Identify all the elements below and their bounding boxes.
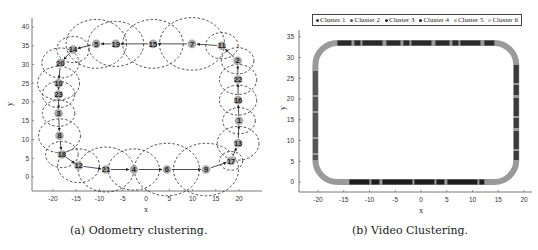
cluster-node-label: 22 xyxy=(234,75,242,84)
legend-label: Cluster 5 xyxy=(458,16,483,24)
legend-label: Cluster 1 xyxy=(320,16,345,24)
legend-item-cluster-2: Cluster 2 xyxy=(350,16,379,24)
x-tick-label: 15 xyxy=(495,196,503,203)
transition-arrow xyxy=(59,68,60,78)
cluster-node-label: 3 xyxy=(56,109,60,118)
y-tick-label: 5 xyxy=(290,158,294,165)
odometry-plot: -20-15-10-5051015200510152025303540xy123… xyxy=(0,0,270,250)
legend-label: Cluster 6 xyxy=(492,16,517,24)
x-tick-label: 10 xyxy=(189,195,197,202)
x-tick-label: -5 xyxy=(120,195,126,202)
y-tick-label: 0 xyxy=(290,178,294,185)
cluster-node-label: 1 xyxy=(237,116,241,125)
x-tick-label: 5 xyxy=(167,195,171,202)
figure-video-clustering: -20-15-10-50510152005101520253035xy Clus… xyxy=(270,0,538,250)
cluster-node-label: 23 xyxy=(54,90,62,99)
transition-arrow xyxy=(197,44,217,45)
y-tick-label: 35 xyxy=(287,33,295,40)
x-tick-label: 20 xyxy=(520,196,528,203)
cluster-node-label: 15 xyxy=(149,40,157,49)
cluster-node-label: 13 xyxy=(234,139,242,148)
y-tick-label: 15 xyxy=(287,116,295,123)
transition-arrow xyxy=(59,118,60,131)
x-tick-label: -20 xyxy=(313,196,323,203)
transition-arrow xyxy=(84,166,102,168)
cluster-node-label: 8 xyxy=(57,131,61,140)
legend-label: Cluster 4 xyxy=(423,16,448,24)
legend-marker-icon xyxy=(419,19,422,22)
x-tick-label: 0 xyxy=(419,196,423,203)
cluster-node-label: 19 xyxy=(112,40,120,49)
y-tick-label: 25 xyxy=(287,75,295,82)
legend-marker-icon xyxy=(316,19,319,22)
trajectory-base xyxy=(315,43,516,182)
cluster-node-label: 18 xyxy=(58,150,66,159)
x-tick-label: -15 xyxy=(72,195,82,202)
caption-b: (b) Video Clustering. xyxy=(352,224,468,237)
caption-a: (a) Odometry clustering. xyxy=(70,224,207,237)
cluster-node-label: 12 xyxy=(74,161,82,170)
legend-item-cluster-5: Cluster 5 xyxy=(454,16,483,24)
y-tick-label: 20 xyxy=(287,95,295,102)
x-tick-label: -10 xyxy=(95,195,105,202)
y-tick-label: 40 xyxy=(22,23,30,30)
legend-marker-icon xyxy=(488,19,491,22)
y-tick-label: 0 xyxy=(25,173,29,180)
legend-item-cluster-1: Cluster 1 xyxy=(316,16,345,24)
x-tick-label: 0 xyxy=(144,195,148,202)
cluster-node-label: 9 xyxy=(204,165,208,174)
cluster-node-label: 6 xyxy=(165,165,169,174)
y-tick-label: 10 xyxy=(287,137,295,144)
y-tick-label: 35 xyxy=(22,42,30,49)
y-axis-label: y xyxy=(5,102,14,106)
y-tick-label: 15 xyxy=(22,117,30,124)
x-tick-label: 10 xyxy=(469,196,477,203)
y-tick-label: 5 xyxy=(25,155,29,162)
cluster-node-label: 17 xyxy=(227,157,235,166)
legend: Cluster 1Cluster 2Cluster 3Cluster 4Clus… xyxy=(312,14,522,26)
cluster-node-label: 5 xyxy=(94,40,98,49)
legend-marker-icon xyxy=(385,19,388,22)
cluster-node-label: 11 xyxy=(218,41,226,50)
legend-marker-icon xyxy=(350,19,353,22)
y-tick-label: 10 xyxy=(22,136,30,143)
x-tick-label: -15 xyxy=(339,196,349,203)
y-tick-label: 25 xyxy=(22,80,30,87)
y-axis-label: y xyxy=(278,106,287,110)
cluster-node-label: 14 xyxy=(69,45,78,54)
x-tick-label: 15 xyxy=(212,195,220,202)
y-tick-label: 20 xyxy=(22,98,30,105)
video-clustering-plot: -20-15-10-50510152005101520253035xy xyxy=(270,0,538,250)
transition-arrow xyxy=(225,49,234,57)
transition-arrow xyxy=(60,141,61,150)
legend-label: Cluster 3 xyxy=(389,16,414,24)
x-tick-label: 20 xyxy=(235,195,243,202)
x-tick-label: -20 xyxy=(48,195,58,202)
x-tick-label: 5 xyxy=(445,196,449,203)
cluster-node-label: 16 xyxy=(234,96,242,105)
x-tick-label: -10 xyxy=(365,196,375,203)
cluster-node-label: 7 xyxy=(190,40,194,49)
legend-item-cluster-6: Cluster 6 xyxy=(488,16,517,24)
x-axis-label: x xyxy=(144,205,148,214)
cluster-node-label: 20 xyxy=(56,59,64,68)
legend-label: Cluster 2 xyxy=(354,16,379,24)
cluster-node-label: 2 xyxy=(236,56,240,65)
transition-arrow xyxy=(66,157,74,163)
transition-arrow xyxy=(211,162,227,167)
legend-item-cluster-3: Cluster 3 xyxy=(385,16,414,24)
cluster-node-label: 10 xyxy=(54,79,62,88)
transition-arrow xyxy=(238,126,239,139)
legend-marker-icon xyxy=(454,19,457,22)
x-axis-label: x xyxy=(419,206,423,215)
x-tick-label: -5 xyxy=(392,196,398,203)
y-tick-label: 30 xyxy=(22,61,30,68)
figure-odometry-clustering: -20-15-10-5051015200510152025303540xy123… xyxy=(0,0,270,250)
cluster-node-label: 21 xyxy=(102,165,110,174)
legend-item-cluster-4: Cluster 4 xyxy=(419,16,448,24)
y-tick-label: 30 xyxy=(287,54,295,61)
